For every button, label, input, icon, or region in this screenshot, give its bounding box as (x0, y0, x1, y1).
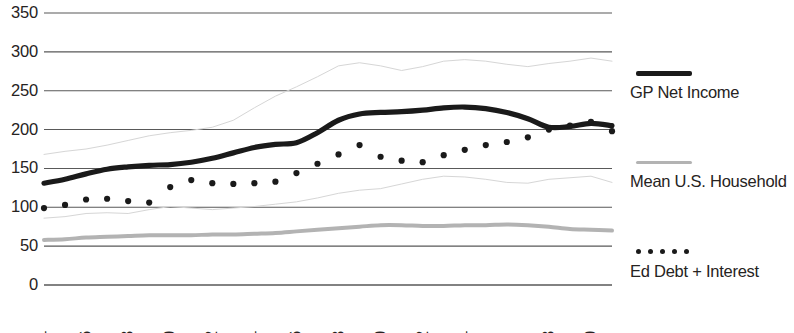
series-line (44, 176, 612, 218)
x-tick-label: 1998 (330, 289, 376, 333)
data-point (462, 147, 468, 153)
data-point (272, 179, 278, 185)
data-point (420, 159, 426, 165)
data-point (483, 142, 489, 148)
x-tick-label: 1996 (287, 289, 333, 333)
legend-swatch-icon (630, 66, 794, 80)
series-mean-u-s-household (44, 224, 612, 240)
data-point (441, 152, 447, 158)
x-tick-label: 2000 (372, 289, 418, 333)
data-point (314, 161, 320, 167)
legend-label: Ed Debt + Interest (630, 262, 794, 281)
data-point (504, 139, 510, 145)
data-point (377, 154, 383, 160)
chart-container: 050100150200250300350 198419861988199019… (0, 0, 794, 333)
data-point (146, 200, 152, 206)
data-point (356, 142, 362, 148)
x-tick-label: 2008 (540, 289, 586, 333)
legend-swatch-icon (630, 245, 794, 259)
chart-legend: GP Net IncomeMean U.S. HouseholdEd Debt … (630, 0, 794, 300)
data-point (167, 184, 173, 190)
legend-entry[interactable]: Mean U.S. Household (630, 155, 794, 191)
series-gp-net-income (44, 107, 612, 183)
data-point (209, 180, 215, 186)
gridlines (44, 13, 612, 285)
series-unlabeled-4 (44, 176, 612, 218)
x-tick-label: 1992 (203, 289, 249, 333)
x-tick-label: 1988 (119, 289, 165, 333)
x-tick-label: 2010 (582, 289, 628, 333)
legend-swatch-icon (630, 155, 794, 169)
x-tick-label: 1984 (35, 289, 81, 333)
series-line (44, 224, 612, 240)
data-point (125, 198, 131, 204)
data-point (293, 170, 299, 176)
data-point (609, 128, 615, 134)
data-point (230, 181, 236, 187)
series-layer (41, 58, 615, 240)
legend-label: Mean U.S. Household (630, 172, 794, 191)
legend-entry[interactable]: GP Net Income (630, 66, 794, 102)
legend-label: GP Net Income (630, 83, 794, 102)
data-point (588, 119, 594, 125)
data-point (251, 180, 257, 186)
x-tick-label: 1994 (245, 289, 291, 333)
data-point (335, 151, 341, 157)
legend-entry[interactable]: Ed Debt + Interest (630, 245, 794, 281)
x-tick-label: 2002 (414, 289, 460, 333)
data-point (567, 123, 573, 129)
data-point (41, 205, 47, 211)
x-tick-label: 2004 (456, 289, 502, 333)
data-point (399, 158, 405, 164)
data-point (525, 134, 531, 140)
x-tick-label: 1986 (77, 289, 123, 333)
x-tick-label: 1990 (161, 289, 207, 333)
data-point (83, 196, 89, 202)
data-point (188, 177, 194, 183)
data-point (104, 196, 110, 202)
series-line (44, 107, 612, 183)
data-point (62, 202, 68, 208)
data-point (546, 126, 552, 132)
